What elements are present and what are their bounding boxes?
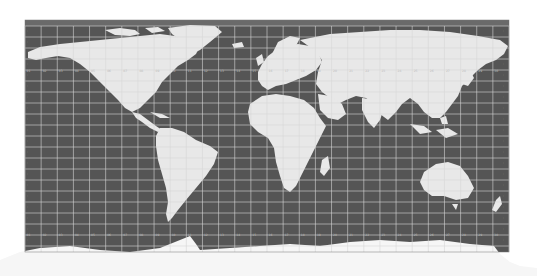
svg-text:22: 22: [365, 69, 369, 73]
svg-text:18: 18: [301, 233, 305, 237]
svg-text:15: 15: [252, 233, 256, 237]
svg-text:08: 08: [139, 233, 143, 237]
svg-text:24: 24: [398, 233, 402, 237]
svg-text:·: ·: [503, 216, 504, 220]
svg-text:12: 12: [204, 233, 208, 237]
svg-text:17: 17: [285, 233, 289, 237]
svg-text:·: ·: [27, 84, 28, 88]
svg-text:·: ·: [503, 73, 504, 77]
svg-text:28: 28: [462, 233, 466, 237]
svg-text:10: 10: [172, 233, 176, 237]
svg-text:24: 24: [398, 69, 402, 73]
svg-text:16: 16: [269, 69, 273, 73]
svg-text:·: ·: [503, 29, 504, 33]
svg-text:07: 07: [123, 69, 127, 73]
svg-text:20: 20: [333, 69, 337, 73]
svg-text:·: ·: [503, 62, 504, 66]
svg-text:·: ·: [503, 150, 504, 154]
svg-text:11: 11: [188, 233, 192, 237]
svg-text:06: 06: [107, 233, 111, 237]
svg-text:14: 14: [236, 69, 240, 73]
svg-text:·: ·: [503, 172, 504, 176]
svg-text:·: ·: [27, 172, 28, 176]
svg-text:17: 17: [285, 69, 289, 73]
svg-text:16: 16: [269, 233, 273, 237]
svg-text:·: ·: [27, 117, 28, 121]
svg-text:03: 03: [59, 233, 63, 237]
svg-text:04: 04: [75, 69, 79, 73]
svg-text:07: 07: [123, 233, 127, 237]
svg-text:03: 03: [59, 69, 63, 73]
svg-text:26: 26: [430, 233, 434, 237]
svg-text:·: ·: [503, 51, 504, 55]
svg-text:·: ·: [27, 150, 28, 154]
svg-text:·: ·: [27, 128, 28, 132]
svg-text:09: 09: [156, 69, 160, 73]
svg-text:09: 09: [156, 233, 160, 237]
svg-text:·: ·: [503, 183, 504, 187]
svg-text:20: 20: [333, 233, 337, 237]
svg-text:·: ·: [503, 106, 504, 110]
svg-text:·: ·: [27, 51, 28, 55]
svg-text:·: ·: [27, 205, 28, 209]
svg-text:·: ·: [27, 216, 28, 220]
svg-text:·: ·: [503, 95, 504, 99]
svg-text:13: 13: [220, 69, 224, 73]
svg-text:14: 14: [236, 233, 240, 237]
svg-text:21: 21: [349, 69, 353, 73]
svg-text:19: 19: [317, 233, 321, 237]
svg-text:·: ·: [27, 227, 28, 231]
svg-text:·: ·: [27, 194, 28, 198]
svg-text:·: ·: [503, 117, 504, 121]
svg-text:10: 10: [172, 69, 176, 73]
svg-text:15: 15: [252, 69, 256, 73]
svg-text:·: ·: [503, 205, 504, 209]
svg-text:27: 27: [446, 69, 450, 73]
svg-text:06: 06: [107, 69, 111, 73]
svg-text:25: 25: [414, 233, 418, 237]
svg-text:·: ·: [503, 227, 504, 231]
svg-text:·: ·: [27, 62, 28, 66]
svg-text:04: 04: [75, 233, 79, 237]
svg-text:·: ·: [27, 161, 28, 165]
svg-text:·: ·: [27, 40, 28, 44]
svg-text:22: 22: [365, 233, 369, 237]
svg-text:·: ·: [503, 139, 504, 143]
svg-text:26: 26: [430, 69, 434, 73]
svg-text:29: 29: [478, 69, 482, 73]
svg-text:08: 08: [139, 69, 143, 73]
svg-text:01: 01: [27, 233, 31, 237]
svg-text:·: ·: [503, 238, 504, 242]
svg-text:05: 05: [91, 233, 95, 237]
world-map: 0102030405060708091011121314151617181920…: [0, 0, 537, 276]
svg-text:28: 28: [462, 69, 466, 73]
svg-text:05: 05: [91, 69, 95, 73]
svg-text:·: ·: [27, 183, 28, 187]
svg-text:·: ·: [27, 139, 28, 143]
svg-text:·: ·: [503, 128, 504, 132]
svg-text:12: 12: [204, 69, 208, 73]
svg-text:30: 30: [494, 69, 498, 73]
svg-text:19: 19: [317, 69, 321, 73]
svg-text:25: 25: [414, 69, 418, 73]
svg-text:·: ·: [503, 40, 504, 44]
top-band: [25, 20, 509, 26]
svg-text:18: 18: [301, 69, 305, 73]
svg-text:11: 11: [188, 69, 192, 73]
svg-text:30: 30: [494, 233, 498, 237]
svg-text:23: 23: [381, 233, 385, 237]
svg-text:·: ·: [27, 238, 28, 242]
svg-text:·: ·: [503, 84, 504, 88]
svg-text:02: 02: [43, 69, 47, 73]
svg-text:·: ·: [27, 73, 28, 77]
svg-text:·: ·: [27, 95, 28, 99]
svg-text:·: ·: [503, 161, 504, 165]
svg-text:13: 13: [220, 233, 224, 237]
svg-text:23: 23: [381, 69, 385, 73]
svg-text:02: 02: [43, 233, 47, 237]
svg-text:27: 27: [446, 233, 450, 237]
svg-text:·: ·: [27, 106, 28, 110]
svg-text:·: ·: [27, 29, 28, 33]
svg-text:·: ·: [503, 194, 504, 198]
svg-text:21: 21: [349, 233, 353, 237]
